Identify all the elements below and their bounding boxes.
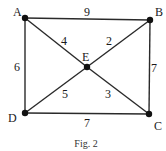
node-label-e: E [82, 50, 89, 64]
edge-weight-e-c: 3 [105, 87, 111, 101]
edge-weight-a-b: 9 [84, 5, 90, 19]
edge-b-e [87, 20, 150, 67]
node-a [22, 15, 28, 21]
node-c [146, 111, 152, 117]
edge-b-c [149, 20, 150, 114]
edge-weight-b-c: 7 [151, 61, 157, 75]
node-label-b: B [155, 5, 163, 19]
node-label-a: A [13, 5, 22, 19]
edge-weight-a-d: 6 [14, 60, 20, 74]
edge-d-e [25, 67, 87, 113]
edge-weight-a-e: 4 [61, 34, 67, 48]
figure-caption: Fig. 2 [74, 138, 97, 149]
edge-d-c [25, 113, 149, 114]
edge-weight-d-c: 7 [84, 116, 90, 130]
edge-weight-d-e: 5 [62, 87, 68, 101]
node-label-d: D [8, 111, 17, 125]
edge-a-e [25, 18, 87, 67]
node-e [84, 64, 90, 70]
edge-e-c [87, 67, 149, 114]
node-d [22, 110, 28, 116]
graph-diagram: 94267537 ABCDE Fig. 2 [0, 0, 166, 151]
edge-weight-b-e: 2 [106, 34, 112, 48]
node-b [147, 17, 153, 23]
node-label-c: C [154, 119, 162, 133]
